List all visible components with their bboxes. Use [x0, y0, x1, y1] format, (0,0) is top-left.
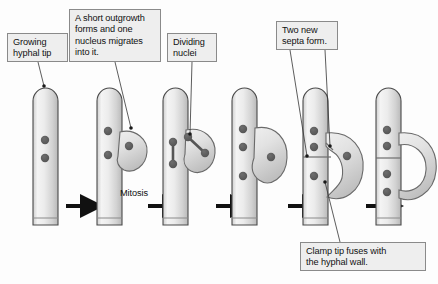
callout-clamp-tip-fuses: Clamp tip fuses with the hyphal wall. [300, 242, 426, 271]
leader-dot [328, 144, 332, 148]
nucleus-in-clamp [343, 152, 351, 160]
stage-1-growing-hyphal-tip [33, 88, 58, 225]
leader-dot [305, 154, 309, 158]
hypha-body [232, 88, 257, 225]
stage-4-nuclei-separated [232, 88, 287, 225]
hypha-body [376, 88, 401, 225]
callout-growing-hyphal-tip: Growing hyphal tip [7, 33, 68, 62]
nucleus [383, 170, 391, 178]
nucleus [310, 127, 318, 135]
leader-dot [188, 132, 192, 136]
clamp-fused-loop [399, 133, 436, 200]
callout-dividing-nuclei: Dividing nuclei [167, 33, 217, 62]
stage-3-dividing-nuclei [163, 88, 215, 225]
clamp-connection-diagram: Growing hyphal tip A short outgrowth for… [0, 0, 438, 284]
nucleus [41, 154, 49, 162]
leader-dot [323, 180, 327, 184]
nucleus [41, 136, 49, 144]
nucleus-migrated [125, 142, 133, 150]
stage-5-two-new-septa [303, 88, 363, 225]
callout-short-outgrowth: A short outgrowth forms and one nucleus … [69, 9, 161, 62]
clamp-curved-to-wall [326, 133, 363, 199]
nucleus [104, 151, 112, 159]
nucleus [239, 172, 247, 180]
nucleus [310, 172, 318, 180]
clamp-outgrowth [117, 131, 147, 171]
nucleus [383, 142, 391, 150]
nucleus-in-clamp [267, 153, 275, 161]
leader-dot [42, 84, 46, 88]
callout-two-new-septa: Two new septa form. [276, 21, 338, 50]
nucleus [310, 143, 318, 151]
stage-2-short-outgrowth [97, 88, 147, 225]
leader-dot [129, 126, 133, 130]
nucleus [239, 125, 247, 133]
stage-label-mitosis: Mitosis [120, 188, 148, 198]
nucleus [104, 127, 112, 135]
stage-6-clamp-fused [376, 88, 436, 225]
leader-dividing-nuclei [190, 62, 192, 134]
nucleus [383, 126, 391, 134]
nucleus [383, 188, 391, 196]
nucleus [239, 143, 247, 151]
leader-growing-tip [38, 62, 44, 86]
